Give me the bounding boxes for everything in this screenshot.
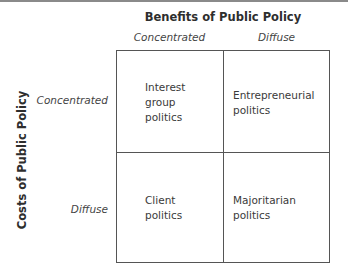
top-border-rule [0,0,348,2]
row-label-diffuse: Diffuse [71,203,108,215]
column-label-concentrated: Concentrated [116,31,223,43]
cell-text: Entrepreneurial politics [233,88,315,118]
column-axis-title: Benefits of Public Policy [116,10,330,24]
cell-text: Majoritarian politics [233,193,296,223]
cell-text: Interest group politics [145,80,185,125]
row-axis-title: Costs of Public Policy [15,91,29,230]
cell-majoritarian-politics: Majoritarian politics [224,153,329,262]
cell-interest-group-politics: Interest group politics [117,51,224,153]
policy-matrix-grid: Interest group politics Entrepreneurial … [116,50,330,263]
cell-entrepreneurial-politics: Entrepreneurial politics [224,51,329,153]
column-label-diffuse: Diffuse [223,31,330,43]
cell-text: Client politics [145,193,182,223]
cell-client-politics: Client politics [117,153,224,262]
row-label-concentrated: Concentrated [37,94,108,106]
